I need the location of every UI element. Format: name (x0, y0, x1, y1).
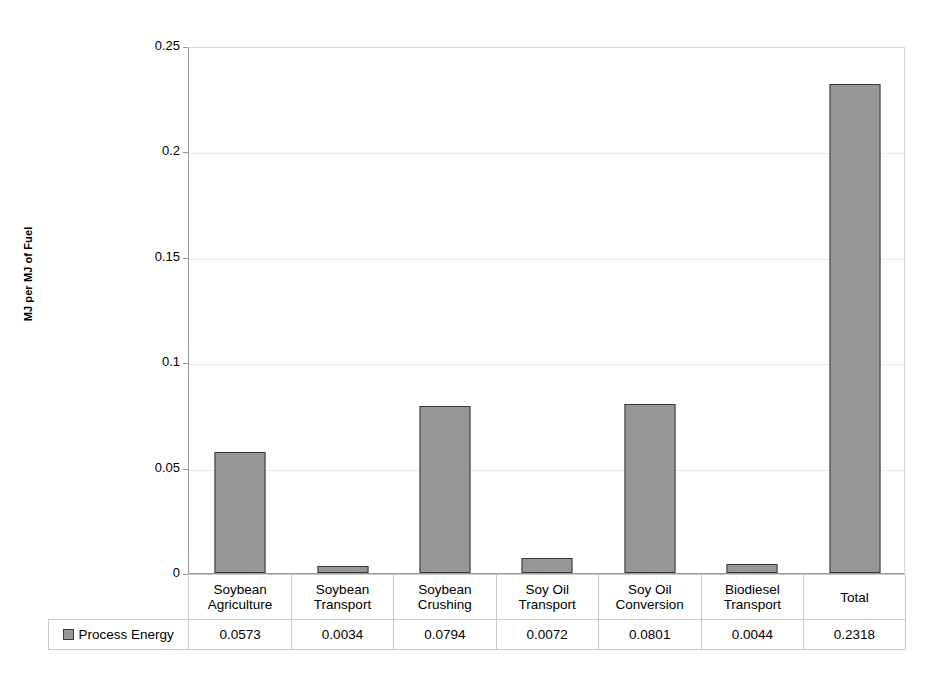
bar-column-4 (599, 48, 701, 573)
table-value-cell-5: 0.0044 (701, 620, 803, 650)
bar-column-1 (291, 48, 393, 573)
table-category-cell-3: Soy OilTransport (496, 575, 598, 620)
category-line: Biodiesel (702, 582, 803, 597)
category-line: Soybean (189, 582, 291, 597)
table-value-cell-1: 0.0034 (291, 620, 393, 650)
category-line: Soybean (292, 582, 393, 597)
table-value-cell-4: 0.0801 (598, 620, 701, 650)
table-corner-blank (49, 575, 189, 620)
table-category-cell-1: SoybeanTransport (291, 575, 393, 620)
table-category-cell-0: SoybeanAgriculture (189, 575, 292, 620)
table-value-cell-2: 0.0794 (394, 620, 496, 650)
bar[interactable] (420, 406, 471, 573)
legend-series-label: Process Energy (78, 627, 173, 642)
bar-column-3 (496, 48, 598, 573)
y-axis-title: MJ per MJ of Fuel (22, 194, 34, 354)
process-energy-swatch (63, 629, 74, 640)
bar-column-2 (394, 48, 496, 573)
table-category-cell-2: SoybeanCrushing (394, 575, 496, 620)
category-line: Transport (702, 597, 803, 612)
bar-chart-figure: MJ per MJ of Fuel 00.050.10.150.20.25 So… (0, 0, 931, 679)
bar[interactable] (624, 404, 675, 573)
category-line: Agriculture (189, 597, 291, 612)
table-value-cell-0: 0.0573 (189, 620, 292, 650)
bar-column-5 (701, 48, 803, 573)
plot-area (188, 47, 905, 574)
y-tick-label-3: 0.15 (132, 251, 180, 263)
category-line: Conversion (599, 597, 701, 612)
y-tick-label-1: 0.05 (132, 462, 180, 474)
table-category-cell-6: Total (803, 575, 905, 620)
table-row-values: Process Energy 0.05730.00340.07940.00720… (49, 620, 906, 650)
category-line: Crushing (394, 597, 495, 612)
legend-series-cell: Process Energy (49, 620, 189, 650)
category-line: Soy Oil (497, 582, 598, 597)
bar-column-6 (804, 48, 906, 573)
table-category-cell-4: Soy OilConversion (598, 575, 701, 620)
bar[interactable] (215, 452, 266, 573)
bar-column-0 (189, 48, 291, 573)
table-row-categories: SoybeanAgricultureSoybeanTransportSoybea… (49, 575, 906, 620)
bar[interactable] (317, 566, 368, 573)
bar[interactable] (727, 564, 778, 573)
y-tick-label-5: 0.25 (132, 40, 180, 52)
category-line: Total (804, 590, 905, 605)
table-category-cell-5: BiodieselTransport (701, 575, 803, 620)
category-line: Soy Oil (599, 582, 701, 597)
table-value-cell-6: 0.2318 (803, 620, 905, 650)
category-line: Soybean (394, 582, 495, 597)
y-tick-label-4: 0.2 (132, 145, 180, 157)
bar[interactable] (522, 558, 573, 573)
data-table: SoybeanAgricultureSoybeanTransportSoybea… (48, 574, 906, 650)
category-line: Transport (292, 597, 393, 612)
y-tick-label-2: 0.1 (132, 356, 180, 368)
category-line: Transport (497, 597, 598, 612)
bar[interactable] (829, 84, 880, 573)
table-value-cell-3: 0.0072 (496, 620, 598, 650)
